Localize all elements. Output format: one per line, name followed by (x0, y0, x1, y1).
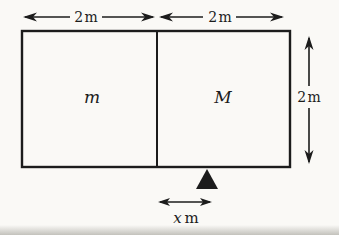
dimension-label-top-left: 2 m (72, 10, 100, 24)
diagram-canvas (0, 0, 339, 235)
figure-page: 2 m 2 m 2 m m M xm (0, 0, 339, 235)
x-distance-unit: m (185, 209, 199, 227)
x-distance-label: xm (173, 211, 199, 226)
fulcrum-triangle (196, 169, 218, 189)
scan-edge-shadow (0, 225, 339, 235)
dimension-arrow-x (158, 198, 212, 206)
dimension-label-right: 2 m (295, 90, 323, 104)
mass-label-left: m (84, 89, 100, 106)
dimension-label-top-right: 2 m (206, 10, 234, 24)
x-distance-value: x (173, 209, 181, 227)
mass-label-right: M (214, 89, 231, 106)
